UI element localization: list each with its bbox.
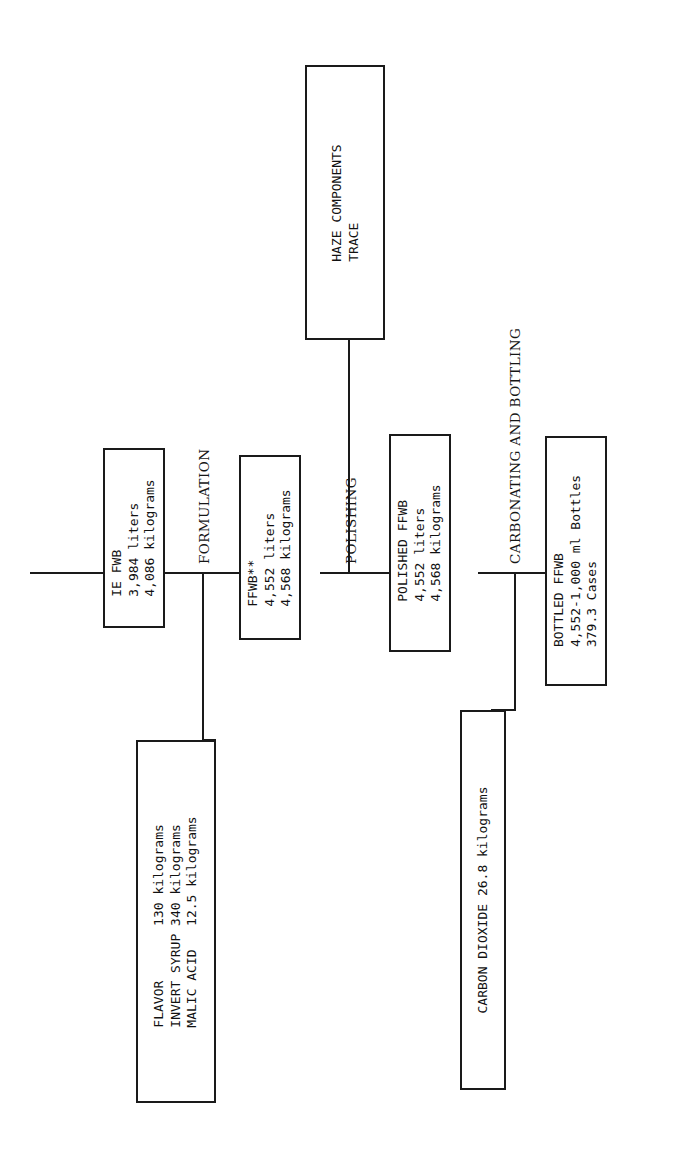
box-ingredients: FLAVOR 130 kilograms INVERT SYRUP 340 ki… xyxy=(136,740,216,1103)
box-bottled-ffwb-text: BOTTLED FFWB 4,552-1,000 ml Bottles 379.… xyxy=(551,475,601,647)
stage-label-polishing: POLISHING xyxy=(343,477,359,564)
box-bottled-ffwb: BOTTLED FFWB 4,552-1,000 ml Bottles 379.… xyxy=(545,436,607,686)
connector-polished-to-carbonating xyxy=(478,572,546,574)
box-haze-components-text: HAZE COMPONENTS TRACE xyxy=(329,144,362,261)
box-polished-ffwb-text: POLISHED FFWB 4,552 liters 4,568 kilogra… xyxy=(395,484,445,601)
box-carbon-dioxide: CARBON DIOXIDE 26.8 kilograms xyxy=(460,710,506,1090)
box-ie-fwb-text: IE FWB 3,984 liters 4,086 kilograms xyxy=(109,479,159,596)
connector-carbonating-co2 xyxy=(514,572,516,710)
connector-inlet xyxy=(30,572,108,574)
box-polished-ffwb: POLISHED FFWB 4,552 liters 4,568 kilogra… xyxy=(389,434,451,652)
box-carbon-dioxide-text: CARBON DIOXIDE 26.8 kilograms xyxy=(475,787,492,1014)
stage-label-carbonating-bottling: CARBONATING AND BOTTLING xyxy=(507,328,523,564)
box-haze-components: HAZE COMPONENTS TRACE xyxy=(305,65,385,340)
stage-label-formulation: FORMULATION xyxy=(196,449,212,564)
box-ffwb: FFWB** 4,552 liters 4,568 kilograms xyxy=(239,455,301,640)
connector-formulation-ingredients xyxy=(202,572,204,740)
box-ie-fwb: IE FWB 3,984 liters 4,086 kilograms xyxy=(103,448,165,628)
connector-ffwb-to-polishing xyxy=(320,572,390,574)
flow-diagram-canvas: HAZE COMPONENTS TRACE IE FWB 3,984 liter… xyxy=(0,0,679,1166)
box-ingredients-text: FLAVOR 130 kilograms INVERT SYRUP 340 ki… xyxy=(151,816,201,1027)
box-ffwb-text: FFWB** 4,552 liters 4,568 kilograms xyxy=(245,489,295,606)
